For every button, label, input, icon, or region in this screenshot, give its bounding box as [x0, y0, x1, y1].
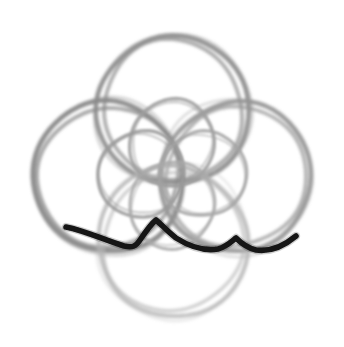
sketch-illustration [0, 0, 344, 347]
sketch-canvas [0, 0, 344, 347]
